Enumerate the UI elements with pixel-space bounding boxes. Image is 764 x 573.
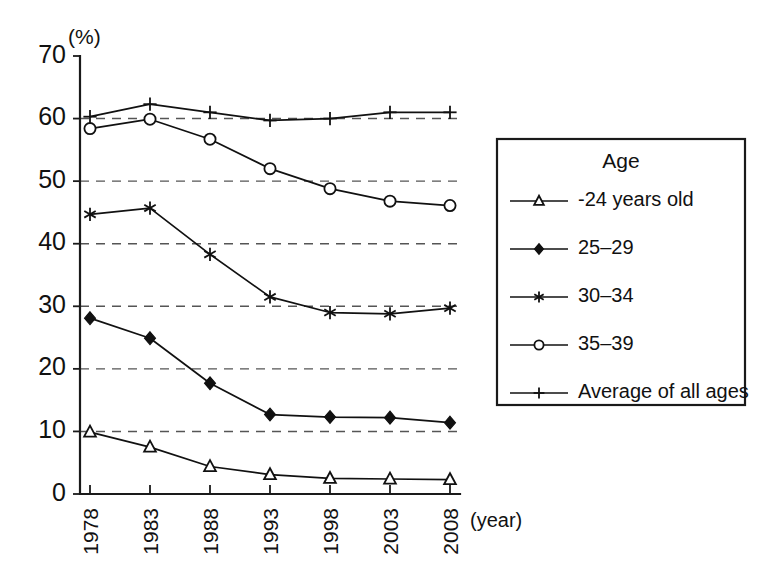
y-axis-tick-labels: 010203040506070	[38, 40, 66, 506]
data-point-1-0	[85, 312, 96, 325]
y-tick-label-0: 0	[52, 478, 66, 506]
y-tick-label-50: 50	[38, 165, 66, 193]
x-axis-title: (year)	[470, 509, 522, 531]
data-point-3-4	[324, 183, 335, 194]
series-4	[83, 98, 456, 127]
data-point-2-3	[264, 290, 275, 303]
series-1	[85, 312, 456, 429]
data-point-1-3	[265, 408, 276, 421]
x-tick-label-2008: 2008	[439, 508, 462, 555]
y-tick-label-20: 20	[38, 352, 66, 380]
data-point-1-1	[145, 332, 156, 345]
data-point-1-5	[385, 411, 396, 424]
data-point-1-6	[445, 416, 456, 429]
legend-label-4: Average of all ages	[578, 380, 749, 402]
series-line-1	[90, 318, 450, 422]
x-tick-label-1998: 1998	[319, 508, 342, 555]
legend-box	[497, 139, 745, 405]
x-tick-label-1983: 1983	[139, 508, 162, 555]
data-point-3-2	[204, 134, 215, 145]
data-point-4-2	[203, 106, 216, 119]
x-tick-label-2003: 2003	[379, 508, 402, 555]
data-point-3-1	[144, 114, 155, 125]
data-point-4-3	[263, 114, 276, 127]
chart-page: 010203040506070 (%) 19781983198819931998…	[0, 0, 764, 573]
data-point-0-5	[384, 473, 396, 484]
legend-title: Age	[602, 149, 639, 172]
data-point-4-1	[143, 98, 156, 111]
legend-label-1: 25–29	[578, 236, 634, 258]
data-point-2-2	[204, 248, 215, 261]
legend-label-0: -24 years old	[578, 188, 694, 210]
legend-marker-open-circle-icon	[534, 340, 543, 349]
data-point-3-5	[384, 196, 395, 207]
line-chart: 010203040506070 (%) 19781983198819931998…	[0, 0, 764, 573]
y-tick-label-30: 30	[38, 290, 66, 318]
data-point-4-5	[383, 106, 396, 119]
legend-label-3: 35–39	[578, 332, 634, 354]
data-point-3-3	[264, 163, 275, 174]
y-tick-label-40: 40	[38, 227, 66, 255]
y-tick-label-70: 70	[38, 40, 66, 68]
x-axis-ticks	[90, 485, 450, 494]
series-0	[84, 426, 456, 485]
y-axis-unit-label: (%)	[68, 25, 101, 48]
data-series-group	[83, 98, 456, 485]
y-tick-label-10: 10	[38, 415, 66, 443]
chart-legend: Age -24 years old25–2930–3435–39Average …	[497, 139, 749, 405]
y-tick-label-60: 60	[38, 102, 66, 130]
data-point-1-4	[325, 411, 336, 424]
data-point-1-2	[205, 377, 216, 390]
data-point-3-6	[444, 200, 455, 211]
data-point-4-0	[83, 110, 96, 123]
data-point-4-6	[443, 106, 456, 119]
x-tick-label-1988: 1988	[199, 508, 222, 555]
x-tick-label-1978: 1978	[79, 508, 102, 555]
data-point-4-4	[323, 112, 336, 125]
data-point-0-6	[444, 473, 456, 484]
data-point-3-0	[84, 123, 95, 134]
x-tick-label-1993: 1993	[259, 508, 282, 555]
series-3	[84, 114, 455, 212]
x-axis-tick-labels: 1978198319881993199820032008	[79, 508, 462, 555]
legend-label-2: 30–34	[578, 284, 634, 306]
series-2	[84, 201, 455, 320]
